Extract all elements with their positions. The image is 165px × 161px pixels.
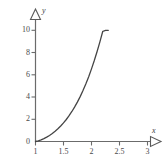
x-tick-label: 1.5 — [54, 148, 74, 156]
y-axis-arrow-icon — [31, 9, 41, 20]
x-tick-label: 3 — [138, 148, 158, 156]
y-tick-label: 10 — [8, 26, 30, 34]
y-axis-label: y — [42, 7, 46, 15]
x-axis-ticks — [36, 142, 148, 146]
y-tick-label: 6 — [8, 71, 30, 79]
chart-figure: 10 8 6 4 2 0 1 1.5 2 2.5 3 y x — [0, 0, 165, 161]
x-axis-label: x — [152, 127, 156, 135]
x-tick-label: 2 — [82, 148, 102, 156]
x-axis-arrow-icon — [151, 137, 162, 147]
x-tick-label: 1 — [26, 148, 46, 156]
y-tick-label: 4 — [8, 93, 30, 101]
y-tick-label: 8 — [8, 49, 30, 57]
x-tick-label: 2.5 — [110, 148, 130, 156]
origin-label: 0 — [8, 138, 30, 146]
data-series-curve — [36, 30, 109, 141]
y-tick-label: 2 — [8, 115, 30, 123]
